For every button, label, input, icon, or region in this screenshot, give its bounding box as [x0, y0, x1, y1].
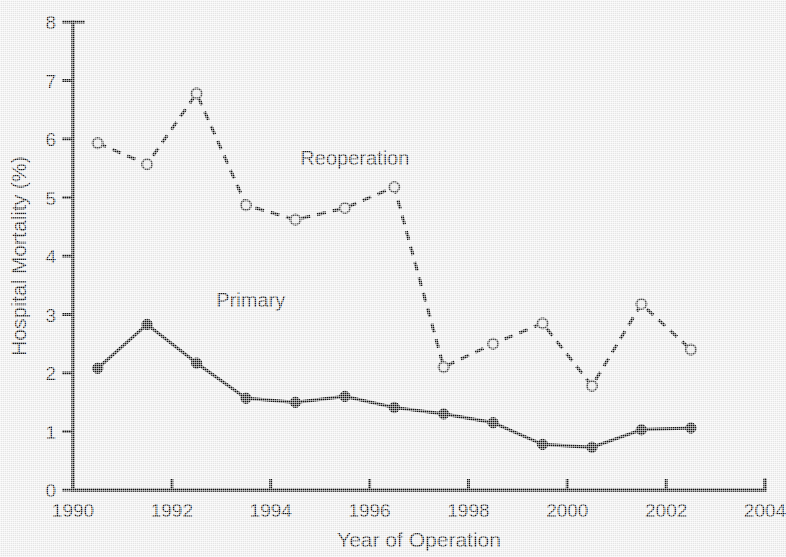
y-axis-tick-label: 0	[45, 480, 56, 501]
data-point-primary	[636, 425, 646, 435]
x-axis-tick-label: 2004	[744, 500, 786, 521]
x-axis-tick-label: 1992	[151, 500, 193, 521]
data-point-reoperation	[389, 182, 399, 192]
y-axis-tick-label: 7	[45, 71, 56, 92]
data-point-reoperation	[93, 138, 103, 148]
data-point-primary	[389, 402, 399, 412]
data-point-reoperation	[587, 381, 597, 391]
x-axis-tick-label: 1998	[447, 500, 489, 521]
mortality-line-chart: 0123456781990199219941996199820002002200…	[0, 0, 786, 557]
y-axis-tick-label: 1	[45, 422, 56, 443]
data-point-reoperation	[290, 215, 300, 225]
data-point-reoperation	[636, 299, 646, 309]
y-axis-tick-label: 3	[45, 305, 56, 326]
y-axis-tick-label: 4	[45, 246, 56, 267]
series-line-primary	[98, 324, 691, 447]
data-point-primary	[241, 393, 251, 403]
x-axis-title: Year of Operation	[337, 528, 501, 551]
y-axis-tick-label: 6	[45, 129, 56, 150]
data-point-primary	[686, 423, 696, 433]
data-point-reoperation	[192, 88, 202, 98]
data-point-reoperation	[538, 318, 548, 328]
y-axis-tick-label: 2	[45, 363, 56, 384]
data-point-primary	[340, 391, 350, 401]
series-label-primary: Primary	[216, 289, 285, 311]
data-point-reoperation	[439, 362, 449, 372]
data-point-primary	[439, 409, 449, 419]
data-series	[93, 88, 697, 452]
x-axis-tick-label: 2002	[645, 500, 687, 521]
data-point-reoperation	[340, 203, 350, 213]
x-axis-tick-label: 1994	[250, 500, 293, 521]
chart-figure: 0123456781990199219941996199820002002200…	[0, 0, 786, 557]
data-point-primary	[488, 418, 498, 428]
x-axis-tick-label: 2000	[546, 500, 588, 521]
y-axis-tick-label: 8	[45, 12, 56, 33]
data-point-primary	[93, 363, 103, 373]
data-point-reoperation	[142, 159, 152, 169]
data-point-primary	[142, 319, 152, 329]
series-label-reoperation: Reoperation	[300, 147, 409, 169]
y-axis-tick-label: 5	[45, 188, 56, 209]
data-point-reoperation	[686, 345, 696, 355]
data-point-reoperation	[488, 339, 498, 349]
axis-spine	[73, 22, 765, 490]
y-axis-title: Hospital Mortality (%)	[7, 156, 30, 356]
x-axis-tick-label: 1996	[348, 500, 390, 521]
data-point-primary	[191, 358, 201, 368]
series-line-reoperation	[98, 93, 691, 386]
data-point-reoperation	[241, 200, 251, 210]
data-point-primary	[537, 439, 547, 449]
x-axis-tick-label: 1990	[52, 500, 94, 521]
data-point-primary	[290, 397, 300, 407]
data-point-primary	[587, 442, 597, 452]
